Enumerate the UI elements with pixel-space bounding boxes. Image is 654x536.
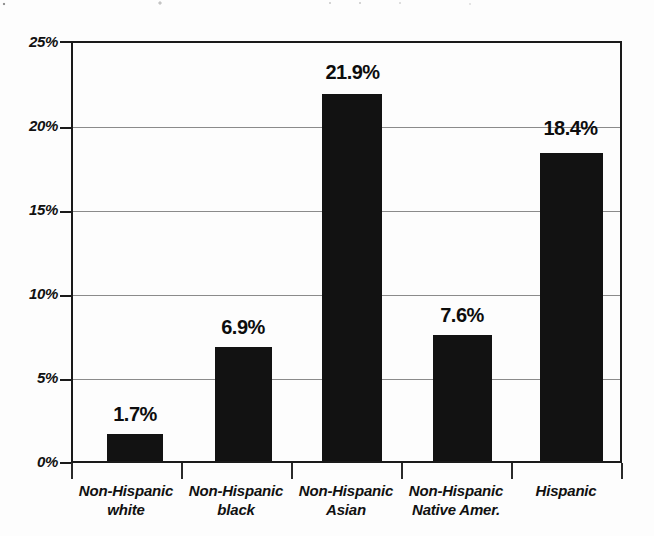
bar-value-hispanic: 18.4% (513, 117, 628, 140)
y-axis-tick-25 (60, 41, 71, 43)
x-axis-label-line-1: Non-Hispanic (71, 481, 181, 500)
x-axis-tick-1 (181, 463, 183, 479)
y-axis-tick-10 (60, 295, 71, 297)
y-axis-tick-15 (60, 211, 71, 213)
x-axis-tick-4 (511, 463, 513, 479)
y-axis-label-10: 10% (2, 285, 58, 302)
x-axis-tick-0 (71, 463, 73, 479)
bar-value-non-hispanic-native-amer: 7.6% (407, 304, 517, 327)
y-axis-label-5: 5% (2, 369, 58, 386)
bar-value-non-hispanic-white: 1.7% (80, 403, 190, 426)
x-axis-label-line-2: Native Amer. (399, 500, 513, 519)
scan-artifact-strip (0, 0, 654, 9)
x-axis-label-line-1: Non-Hispanic (291, 481, 401, 500)
y-axis-label-15: 15% (2, 201, 58, 218)
y-axis-tick-20 (60, 127, 71, 129)
x-axis-label-line-1: Non-Hispanic (399, 481, 513, 500)
x-axis-label-non-hispanic-white: Non-Hispanic white (71, 481, 181, 519)
x-axis-label-line-1: Hispanic (511, 481, 621, 500)
bar-value-non-hispanic-asian: 21.9% (295, 61, 410, 84)
y-axis-label-20: 20% (2, 117, 58, 134)
chart-page: 25% 20% 15% 10% 5% 0% (0, 0, 654, 536)
x-axis-label-non-hispanic-native-amer: Non-Hispanic Native Amer. (399, 481, 513, 519)
y-axis-label-25: 25% (2, 33, 58, 50)
x-axis-tick-3 (401, 463, 403, 479)
y-axis-tick-5 (60, 379, 71, 381)
x-axis-label-non-hispanic-black: Non-Hispanic black (181, 481, 291, 519)
x-axis-label-line-2: Asian (291, 500, 401, 519)
y-axis-tick-0 (60, 462, 71, 464)
x-axis-label-line-2: black (181, 500, 291, 519)
bar-value-non-hispanic-black: 6.9% (188, 316, 298, 339)
x-axis-label-line-2: white (71, 500, 181, 519)
x-axis-label-non-hispanic-asian: Non-Hispanic Asian (291, 481, 401, 519)
y-axis-label-0: 0% (2, 453, 58, 470)
plot-frame (71, 41, 622, 463)
x-axis-tick-5 (621, 463, 623, 479)
x-axis-label-line-1: Non-Hispanic (181, 481, 291, 500)
x-axis-tick-2 (291, 463, 293, 479)
x-axis-label-hispanic: Hispanic (511, 481, 621, 500)
